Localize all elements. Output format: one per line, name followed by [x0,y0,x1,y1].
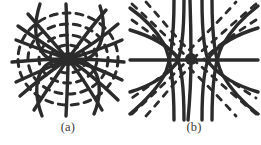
panel-a-diagram [10,0,126,120]
singular-point-dot [61,52,75,66]
panel-b-label: (b) [130,121,258,134]
panel-a [10,0,126,120]
figure-container: (a) [0,0,261,145]
panel-a-label: (a) [10,121,126,134]
panel-b [130,0,258,120]
panel-b-diagram [130,0,258,120]
dashed-hyperbola [132,4,186,56]
saddle-point-dot [185,53,197,65]
